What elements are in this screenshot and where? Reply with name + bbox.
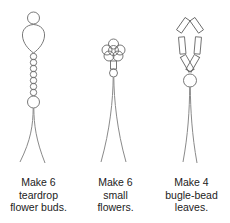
caption-line: flowers. bbox=[77, 201, 154, 214]
caption-line: Make 6 bbox=[77, 176, 154, 189]
small-flower-illustration bbox=[77, 0, 154, 175]
caption-teardrop-flower-buds: Make 6 teardrop flower buds. bbox=[0, 176, 77, 214]
figure-bugle-bead-leaf: Make 4 bugle-bead leaves. bbox=[153, 0, 230, 223]
caption-small-flowers: Make 6 small flowers. bbox=[77, 176, 154, 214]
caption-line: teardrop bbox=[0, 189, 77, 202]
caption-bugle-bead-leaves: Make 4 bugle-bead leaves. bbox=[153, 176, 230, 214]
caption-line: Make 4 bbox=[153, 176, 230, 189]
caption-line: leaves. bbox=[153, 201, 230, 214]
figure-teardrop-flower-bud: Make 6 teardrop flower buds. bbox=[0, 0, 77, 223]
caption-line: flower buds. bbox=[0, 201, 77, 214]
figure-small-flower: Make 6 small flowers. bbox=[77, 0, 154, 223]
caption-line: bugle-bead bbox=[153, 189, 230, 202]
teardrop-flower-bud-illustration bbox=[0, 0, 77, 175]
bugle-bead-leaf-illustration bbox=[153, 0, 230, 175]
caption-line: small bbox=[77, 189, 154, 202]
caption-line: Make 6 bbox=[0, 176, 77, 189]
